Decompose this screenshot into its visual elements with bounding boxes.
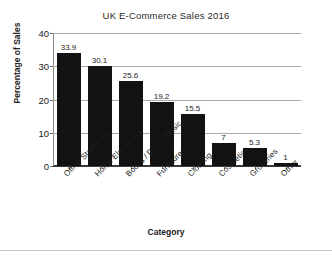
bar-value-label: 15.5	[185, 104, 201, 113]
bar-value-label: 5.3	[249, 138, 260, 147]
y-tick-mark-20	[50, 100, 53, 101]
y-tick-label-20: 20	[38, 94, 49, 105]
chart-title: UK E-Commerce Sales 2016	[0, 10, 332, 21]
y-tick-label-40: 40	[38, 28, 49, 39]
bar-value-label: 30.1	[92, 56, 108, 65]
bar-value-label: 19.2	[154, 92, 170, 101]
x-axis-title: Category	[0, 227, 332, 237]
y-axis-title: Percentage of Sales	[12, 0, 22, 128]
y-tick-mark-40	[50, 33, 53, 34]
bar-value-label: 25.6	[123, 71, 139, 80]
y-tick-label-10: 10	[38, 127, 49, 138]
bar-group: 1	[274, 33, 298, 166]
bar-chart-figure: UK E-Commerce Sales 2016 Percentage of S…	[0, 0, 332, 262]
bar-value-label: 1	[283, 153, 287, 162]
y-tick-mark-30	[50, 66, 53, 67]
bar-group: 33.9	[57, 33, 81, 166]
bar-value-label: 7	[221, 133, 225, 142]
bar-value-label: 33.9	[61, 43, 77, 52]
bar	[57, 53, 81, 166]
y-tick-label-30: 30	[38, 61, 49, 72]
bar-group: 7	[212, 33, 236, 166]
y-tick-mark-0	[50, 166, 53, 167]
bar-group: 15.5	[181, 33, 205, 166]
y-tick-mark-10	[50, 133, 53, 134]
bottom-divider	[0, 250, 332, 251]
y-tick-label-0: 0	[44, 161, 49, 172]
